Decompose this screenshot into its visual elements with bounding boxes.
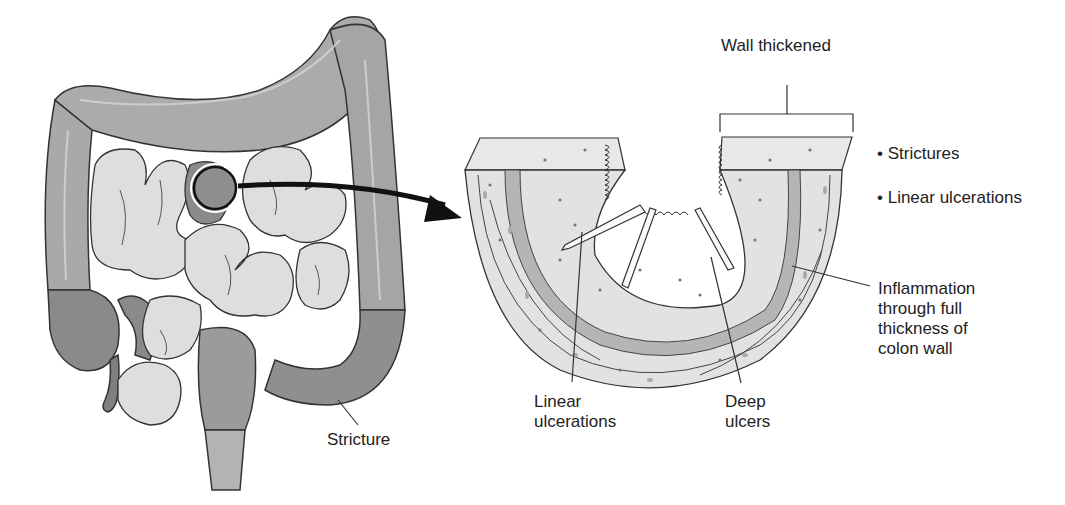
arrow-head-icon [424,195,462,222]
magnify-circle [194,167,236,209]
diagram-canvas [0,0,1065,505]
colon-wall-cross-section [465,137,852,388]
wall-thickened-bracket [720,85,853,132]
bullet-linear-ulcerations: Linear ulcerations [877,188,1022,208]
bullet-strictures: Strictures [877,144,959,164]
label-inflammation: Inflammation through full thickness of c… [878,279,975,359]
label-linear-ulcerations: Linear ulcerations [534,392,616,432]
stricture-leader [338,400,358,425]
label-stricture: Stricture [327,430,390,450]
label-wall-thickened: Wall thickened [721,36,831,56]
label-deep-ulcers: Deep ulcers [725,392,770,432]
